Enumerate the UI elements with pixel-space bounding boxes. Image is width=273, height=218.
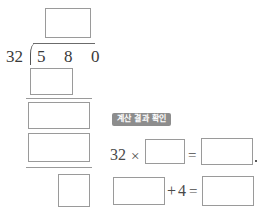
division-vinculum: [33, 43, 95, 44]
dividend-digit-3: 0: [91, 48, 100, 65]
equation2-addend-value: 4: [178, 183, 186, 199]
dividend-digit-2: 8: [64, 48, 73, 65]
partial-product-2-box[interactable]: [28, 133, 90, 162]
check-result-badge: 계산 결과 확인: [112, 113, 171, 126]
subtraction-rule-2: [26, 167, 92, 168]
equation1-factor-box[interactable]: [145, 139, 185, 164]
equation1-equals-symbol: =: [188, 148, 196, 163]
equation1-product-box[interactable]: [201, 138, 253, 165]
dividend-digit-1: 5: [37, 48, 46, 65]
worksheet-page: 32 5 8 0 계산 결과 확인 32 ×: [0, 0, 273, 218]
equation2-addend-box[interactable]: [113, 177, 165, 205]
plus-symbol: +: [167, 183, 176, 199]
dividend-value: 5 8 0: [37, 48, 100, 65]
equation2-equals-symbol: =: [189, 184, 197, 199]
quotient-answer-box[interactable]: [45, 8, 91, 38]
trailing-comma-mark: [255, 160, 257, 162]
multiply-symbol: ×: [131, 149, 139, 164]
divisor-value: 32: [6, 48, 23, 65]
equation1-operand: 32: [110, 147, 126, 163]
partial-remainder-box[interactable]: [28, 102, 90, 129]
subtraction-rule-1: [26, 98, 92, 99]
final-remainder-box[interactable]: [58, 174, 90, 207]
equation2-sum-box[interactable]: [202, 176, 254, 206]
partial-product-1-box[interactable]: [30, 68, 73, 95]
